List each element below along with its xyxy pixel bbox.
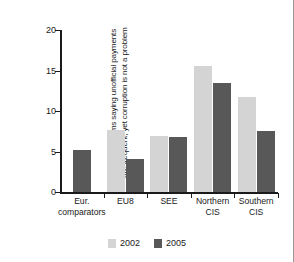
bar-2005 — [126, 159, 144, 192]
y-axis-tick-label: 15 — [46, 66, 56, 76]
x-axis-tick-labels: Eur.comparatorsEU8SEENorthernCISSouthern… — [60, 196, 278, 228]
bar-2002 — [194, 66, 212, 192]
y-axis-tick-label: 5 — [51, 147, 56, 157]
legend-swatch-icon — [154, 239, 162, 248]
bar-chart-figure: Percent of firms saying unofficial payme… — [0, 0, 294, 262]
y-axis-tick-label: 10 — [46, 106, 56, 116]
bar-group — [104, 30, 148, 192]
legend-item-2005[interactable]: 2005 — [154, 238, 186, 248]
y-axis-title: Percent of firms saying unofficial payme… — [0, 0, 42, 205]
bar-2005 — [169, 137, 187, 192]
bar-2002 — [238, 97, 256, 192]
x-axis-label-line: CIS — [228, 207, 284, 218]
legend-label: 2005 — [166, 238, 186, 248]
bar-2005 — [213, 83, 231, 192]
legend-swatch-icon — [108, 239, 116, 248]
bar-group — [60, 30, 104, 192]
y-axis-tick-label: 20 — [46, 25, 56, 35]
plot-area: 05101520 — [60, 30, 278, 192]
chart-legend: 20022005 — [0, 238, 294, 248]
bar-2002 — [107, 130, 125, 192]
x-axis-line — [60, 192, 278, 194]
legend-label: 2002 — [120, 238, 140, 248]
x-axis-label-line: Southern — [228, 196, 284, 207]
bar-2002 — [150, 136, 168, 192]
x-axis-label-line: comparators — [54, 207, 110, 218]
legend-item-2002[interactable]: 2002 — [108, 238, 140, 248]
bar-group — [147, 30, 191, 192]
bar-group — [234, 30, 278, 192]
bar-2005 — [73, 150, 91, 192]
bar-2005 — [257, 131, 275, 192]
bar-group — [191, 30, 235, 192]
x-axis-label-4: SouthernCIS — [228, 196, 284, 218]
